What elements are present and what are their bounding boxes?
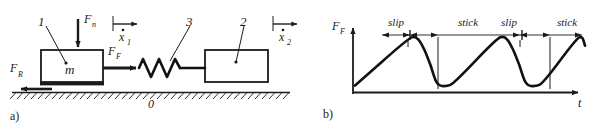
label-part-2: 2 [240, 14, 247, 29]
label-phase-stick-1: stick [458, 16, 479, 28]
label-axis-y-FF: F F [331, 19, 345, 36]
panel-b-caption: b) [323, 107, 333, 121]
label-velocity-x1: x 1 [118, 29, 131, 47]
svg-text:2: 2 [287, 38, 291, 47]
svg-text:1: 1 [127, 38, 131, 47]
svg-text:R: R [17, 70, 23, 79]
label-velocity-x2: x 2 [278, 29, 291, 47]
stick-slip-figure: 1 3 2 0 m F n F F F R x 1 x 2 [0, 0, 601, 130]
label-phase-slip-1: slip [388, 16, 404, 28]
label-part-3: 3 [185, 14, 193, 29]
velocity-dot-x1 [122, 29, 125, 32]
label-layer: 1 3 2 0 m F n F F F R x 1 x 2 [0, 0, 601, 130]
label-axis-x-t: t [578, 96, 582, 110]
svg-text:F: F [9, 61, 18, 75]
svg-text:F: F [339, 27, 345, 36]
label-force-reaction: F R [9, 61, 23, 79]
panel-a-caption: a) [10, 109, 19, 123]
label-ground-0: 0 [148, 97, 154, 111]
label-force-friction-drive: F F [107, 44, 121, 61]
label-force-normal: F n [83, 12, 96, 29]
label-phase-slip-2: slip [501, 16, 517, 28]
velocity-dot-x2 [282, 29, 285, 32]
svg-text:F: F [107, 44, 116, 58]
svg-text:F: F [83, 12, 92, 26]
label-part-1: 1 [38, 14, 45, 29]
label-phase-stick-2: stick [557, 16, 578, 28]
svg-text:x: x [118, 30, 125, 44]
label-mass-m: m [65, 62, 74, 77]
svg-text:n: n [92, 20, 96, 29]
svg-text:F: F [115, 52, 121, 61]
svg-text:F: F [331, 19, 340, 33]
svg-text:x: x [278, 30, 285, 44]
